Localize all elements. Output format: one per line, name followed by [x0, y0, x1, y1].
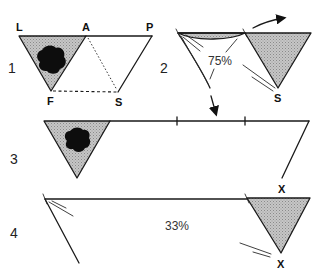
vertex-label-l: L — [16, 21, 23, 33]
edge-p-s — [118, 36, 152, 92]
motion-line-4 — [210, 69, 214, 79]
flap-left-edge-inner — [181, 36, 208, 84]
vertex-label-s: S — [115, 96, 122, 108]
flap-left-edge — [178, 33, 210, 88]
shaded-triangle-right — [245, 33, 311, 88]
percent-label-33: 33% — [165, 219, 189, 233]
panel-1: 1 L A P F S — [8, 21, 153, 108]
arrow-down-icon — [211, 96, 216, 114]
panel-number-1: 1 — [8, 60, 16, 76]
left-diagonal-edge — [45, 199, 79, 263]
vertex-label-f: F — [47, 95, 54, 107]
panel-number-2: 2 — [160, 60, 168, 76]
panel-3: 3 X — [10, 117, 309, 195]
shaded-triangle-right-4 — [247, 198, 310, 253]
folding-diagram: 1 L A P F S 2 75% S — [0, 0, 326, 274]
vertex-label-p: P — [146, 21, 153, 33]
percent-label-75: 75% — [208, 54, 232, 68]
vertex-label-s-2: S — [274, 92, 281, 104]
vertex-label-x: X — [278, 183, 286, 195]
panel-4: 4 33% X — [10, 194, 310, 270]
vertex-label-a: A — [82, 21, 90, 33]
motion-line-3 — [226, 39, 237, 52]
dashed-edge-f-s — [53, 91, 118, 92]
panel-number-3: 3 — [10, 151, 18, 167]
edge-to-x — [282, 121, 309, 178]
panel-2: 2 75% S — [160, 18, 311, 114]
curved-arrow-right-icon — [253, 18, 284, 28]
dotted-fold-a-s — [88, 38, 117, 90]
panel-number-4: 4 — [10, 225, 18, 241]
vertex-label-x-bottom: X — [277, 258, 285, 270]
